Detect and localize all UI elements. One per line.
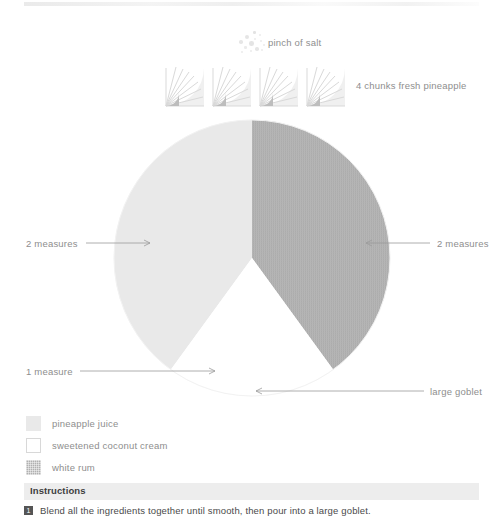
leader-line-large-goblet xyxy=(256,388,424,394)
leader-line-pineapple-juice xyxy=(86,240,150,246)
instructions-header-band xyxy=(24,483,479,500)
salt-ingredient-label: pinch of salt xyxy=(268,37,321,48)
pineapple-chunk-icon xyxy=(211,66,253,108)
step-number-badge: 1 xyxy=(24,506,33,515)
pineapple-chunk-icon xyxy=(305,66,347,108)
chart-legend: pineapple juice sweetened coconut cream … xyxy=(26,412,276,478)
legend-label: sweetened coconut cream xyxy=(52,440,168,451)
legend-item-pineapple-juice: pineapple juice xyxy=(26,412,276,434)
pineapple-ingredient-label: 4 chunks fresh pineapple xyxy=(356,80,466,91)
pie-slice-white-rum xyxy=(252,120,390,370)
legend-label: white rum xyxy=(52,462,95,473)
legend-swatch-icon xyxy=(26,460,41,475)
pineapple-chunk-icon xyxy=(258,66,300,108)
salt-grains-icon xyxy=(239,31,267,55)
legend-swatch-icon xyxy=(26,416,41,431)
pineapple-chunk-icon xyxy=(164,66,206,108)
legend-item-white-rum: white rum xyxy=(26,456,276,478)
callout-white-rum-measure: 2 measures xyxy=(437,238,489,249)
callout-glassware: large goblet xyxy=(430,386,482,397)
page-top-ghost-artifact xyxy=(24,2,479,6)
legend-label: pineapple juice xyxy=(52,418,118,429)
leader-line-coconut-cream xyxy=(80,368,215,374)
instructions-heading: Instructions xyxy=(30,485,86,496)
legend-swatch-icon xyxy=(26,438,41,453)
callout-coconut-cream-measure: 1 measure xyxy=(26,366,73,377)
legend-item-coconut-cream: sweetened coconut cream xyxy=(26,434,276,456)
instruction-step-text: Blend all the ingredients together until… xyxy=(40,505,371,516)
pie-slice-pineapple-juice xyxy=(114,120,252,370)
instruction-step: 1 Blend all the ingredients together unt… xyxy=(24,505,371,516)
callout-pineapple-juice-measure: 2 measures xyxy=(26,238,78,249)
pineapple-chunks-group xyxy=(164,66,348,108)
leader-line-white-rum xyxy=(366,240,430,246)
pie-slice-coconut-cream xyxy=(171,258,333,396)
